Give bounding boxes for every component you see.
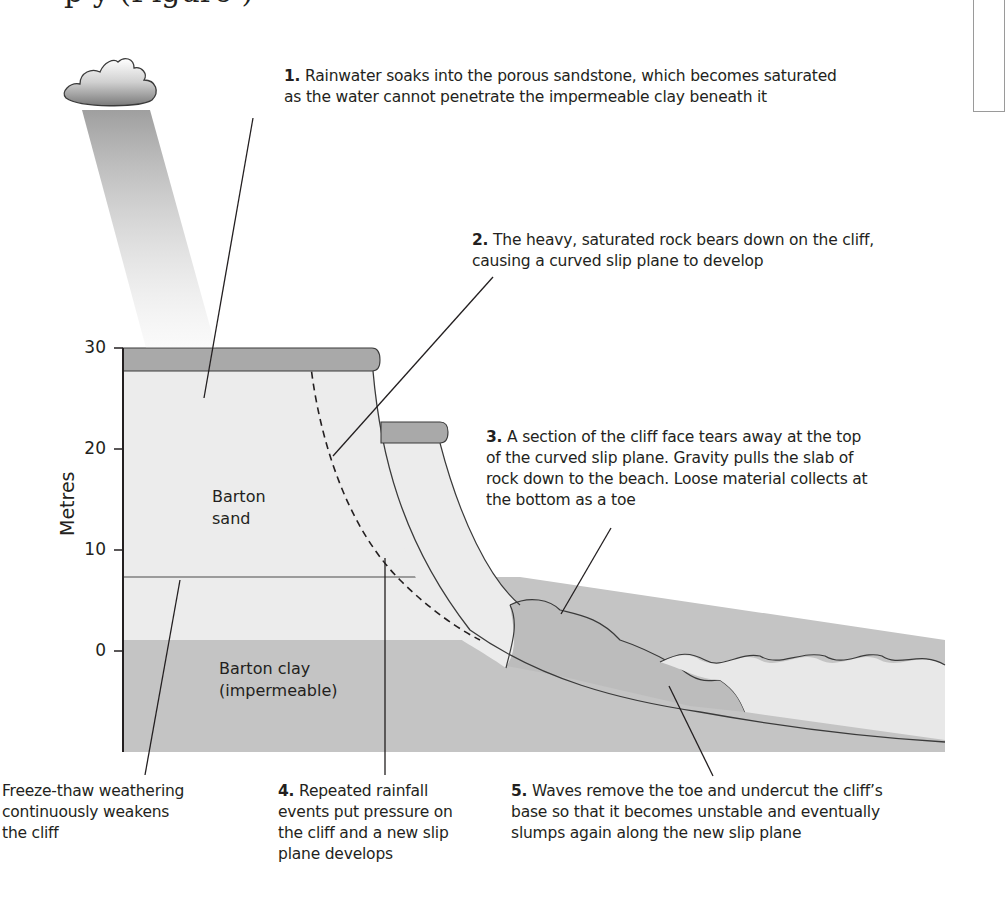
annotation-5: 5. Waves remove the toe and undercut the… [511, 781, 883, 844]
annotation-4: 4. Repeated rainfall events put pressure… [278, 781, 453, 865]
annotation-2: 2. The heavy, saturated rock bears down … [472, 230, 874, 272]
annotation-5-line: slumps again along the new slip plane [511, 823, 883, 844]
annotation-freeze-thaw-line: Freeze-thaw weathering [2, 781, 184, 802]
annotation-freeze-thaw-line: the cliff [2, 823, 184, 844]
clay-label-line: (impermeable) [219, 680, 338, 702]
annotation-4-line: events put pressure on [278, 802, 453, 823]
sand-label-line: Barton [212, 486, 266, 508]
annotation-3-line: rock down to the beach. Loose material c… [486, 469, 867, 490]
clay-layer-label: Barton clay (impermeable) [219, 658, 338, 702]
annotation-freeze-thaw: Freeze-thaw weathering continuously weak… [2, 781, 184, 844]
annotation-3-line: 3. A section of the cliff face tears awa… [486, 427, 867, 448]
caprock-main [123, 348, 380, 371]
cloud-icon [64, 59, 156, 106]
annotation-freeze-thaw-line: continuously weakens [2, 802, 184, 823]
y-tick-30: 30 [70, 337, 106, 357]
y-axis-title: Metres [56, 471, 78, 536]
annotation-4-line: 4. Repeated rainfall [278, 781, 453, 802]
annotation-3: 3. A section of the cliff face tears awa… [486, 427, 867, 511]
annotation-3-line: of the curved slip plane. Gravity pulls … [486, 448, 867, 469]
annotation-3-line: the bottom as a toe [486, 490, 867, 511]
annotation-1: 1. Rainwater soaks into the porous sands… [284, 66, 837, 108]
y-tick-20: 20 [70, 438, 106, 458]
annotation-2-line: causing a curved slip plane to develop [472, 251, 874, 272]
sand-label-line: sand [212, 508, 266, 530]
sand-layer-label: Barton sand [212, 486, 266, 530]
clay-label-line: Barton clay [219, 658, 338, 680]
y-tick-0: 0 [70, 640, 106, 660]
y-tick-10: 10 [70, 539, 106, 559]
rain-beam [82, 110, 216, 348]
y-axis [114, 348, 123, 752]
annotation-1-line: as the water cannot penetrate the imperm… [284, 87, 837, 108]
caprock-slumped [381, 422, 448, 443]
annotation-5-line: base so that it becomes unstable and eve… [511, 802, 883, 823]
annotation-1-line: 1. Rainwater soaks into the porous sands… [284, 66, 837, 87]
annotation-2-line: 2. The heavy, saturated rock bears down … [472, 230, 874, 251]
annotation-4-line: the cliff and a new slip [278, 823, 453, 844]
annotation-5-line: 5. Waves remove the toe and undercut the… [511, 781, 883, 802]
annotation-4-line: plane develops [278, 844, 453, 865]
